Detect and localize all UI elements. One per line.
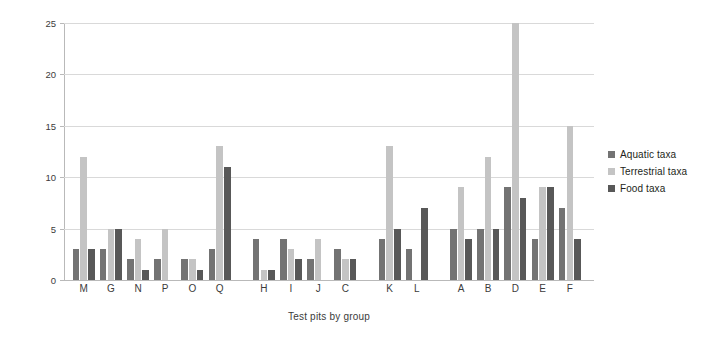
x-tick-label-D: D	[512, 283, 519, 294]
plot-area	[64, 23, 594, 280]
y-axis-title-text: Number of taxa	[2, 0, 26, 24]
legend: Aquatic taxaTerrestrial taxaFood taxa	[608, 146, 708, 197]
y-tick-label-20: 20	[30, 69, 56, 80]
bar-P-aquatic-taxa	[154, 259, 161, 280]
x-tick-label-Q: Q	[216, 283, 224, 294]
x-tick-label-P: P	[162, 283, 169, 294]
bar-N-food-taxa	[142, 270, 149, 280]
bar-Q-aquatic-taxa	[209, 249, 216, 280]
bar-C-aquatic-taxa	[334, 249, 341, 280]
bar-M-aquatic-taxa	[73, 249, 80, 280]
bar-L-food-taxa	[421, 208, 428, 280]
x-tick-label-I: I	[290, 283, 293, 294]
legend-swatch-icon	[608, 168, 615, 175]
bar-M-food-taxa	[88, 249, 95, 280]
bar-K-food-taxa	[394, 229, 401, 280]
bar-E-food-taxa	[547, 187, 554, 280]
bar-Q-terrestrial-taxa	[216, 146, 223, 280]
x-tick-label-O: O	[189, 283, 197, 294]
bar-chart: Number of taxa 0510152025 MGNPOQHIJCKLAB…	[0, 0, 712, 341]
bar-J-terrestrial-taxa	[315, 239, 322, 280]
legend-label: Food taxa	[620, 183, 665, 194]
bar-Q-food-taxa	[224, 167, 231, 280]
x-tick-label-L: L	[414, 283, 420, 294]
bar-C-terrestrial-taxa	[342, 259, 349, 280]
bar-D-terrestrial-taxa	[512, 23, 519, 280]
bar-A-terrestrial-taxa	[458, 187, 465, 280]
y-tick-mark-20	[60, 74, 64, 75]
x-tick-label-C: C	[342, 283, 349, 294]
y-tick-label-0: 0	[30, 275, 56, 286]
y-tick-mark-15	[60, 126, 64, 127]
x-tick-label-N: N	[134, 283, 141, 294]
bar-H-aquatic-taxa	[253, 239, 260, 280]
x-tick-label-K: K	[386, 283, 393, 294]
bar-I-aquatic-taxa	[280, 239, 287, 280]
legend-swatch-icon	[608, 151, 615, 158]
bar-O-aquatic-taxa	[181, 259, 188, 280]
bar-N-aquatic-taxa	[127, 259, 134, 280]
x-tick-label-E: E	[539, 283, 546, 294]
bar-F-aquatic-taxa	[559, 208, 566, 280]
bar-I-terrestrial-taxa	[288, 249, 295, 280]
bar-E-aquatic-taxa	[532, 239, 539, 280]
bar-D-food-taxa	[520, 198, 527, 280]
x-tick-label-G: G	[107, 283, 115, 294]
bar-E-terrestrial-taxa	[539, 187, 546, 280]
legend-swatch-icon	[608, 185, 615, 192]
x-axis-ticks: MGNPOQHIJCKLABDEF	[64, 283, 594, 301]
bar-H-terrestrial-taxa	[261, 270, 268, 280]
gridline-0	[64, 280, 594, 281]
bar-G-terrestrial-taxa	[108, 229, 115, 280]
bar-H-food-taxa	[268, 270, 275, 280]
bar-B-terrestrial-taxa	[485, 157, 492, 280]
bar-P-terrestrial-taxa	[162, 229, 169, 280]
bar-B-food-taxa	[493, 229, 500, 280]
x-tick-label-J: J	[316, 283, 321, 294]
legend-item-terrestrial-taxa[interactable]: Terrestrial taxa	[608, 163, 708, 180]
bar-A-aquatic-taxa	[450, 229, 457, 280]
y-tick-label-15: 15	[30, 120, 56, 131]
bar-B-aquatic-taxa	[477, 229, 484, 280]
bar-F-terrestrial-taxa	[567, 126, 574, 280]
bar-K-terrestrial-taxa	[386, 146, 393, 280]
y-tick-mark-25	[60, 23, 64, 24]
bar-K-aquatic-taxa	[379, 239, 386, 280]
bar-C-food-taxa	[350, 259, 357, 280]
bar-I-food-taxa	[295, 259, 302, 280]
bar-D-aquatic-taxa	[504, 187, 511, 280]
bar-N-terrestrial-taxa	[135, 239, 142, 280]
y-tick-label-5: 5	[30, 223, 56, 234]
x-tick-label-B: B	[485, 283, 492, 294]
bar-J-aquatic-taxa	[307, 259, 314, 280]
y-tick-label-10: 10	[30, 172, 56, 183]
y-axis-title: Number of taxa	[2, 0, 26, 24]
bar-O-food-taxa	[197, 270, 204, 280]
x-tick-label-M: M	[79, 283, 87, 294]
bar-O-terrestrial-taxa	[189, 259, 196, 280]
bar-M-terrestrial-taxa	[80, 157, 87, 280]
bar-A-food-taxa	[465, 239, 472, 280]
bar-F-food-taxa	[574, 239, 581, 280]
bars-layer	[64, 23, 594, 280]
y-tick-mark-5	[60, 229, 64, 230]
legend-label: Terrestrial taxa	[620, 166, 687, 177]
bar-G-food-taxa	[115, 229, 122, 280]
x-tick-label-F: F	[567, 283, 573, 294]
legend-item-aquatic-taxa[interactable]: Aquatic taxa	[608, 146, 708, 163]
bar-G-aquatic-taxa	[100, 249, 107, 280]
x-axis-title: Test pits by group	[64, 311, 594, 322]
bar-L-aquatic-taxa	[406, 249, 413, 280]
y-tick-mark-0	[60, 280, 64, 281]
y-tick-label-25: 25	[30, 18, 56, 29]
legend-item-food-taxa[interactable]: Food taxa	[608, 180, 708, 197]
x-tick-label-A: A	[458, 283, 465, 294]
y-tick-mark-10	[60, 177, 64, 178]
x-tick-label-H: H	[260, 283, 267, 294]
legend-label: Aquatic taxa	[620, 149, 676, 160]
